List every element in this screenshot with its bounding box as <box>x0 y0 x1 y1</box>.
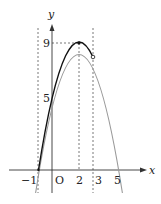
vertex-point <box>77 41 80 44</box>
zero-point <box>37 169 39 171</box>
tick-x-3: 3 <box>95 174 102 187</box>
tick-x-minus1: −1 <box>21 174 37 187</box>
solid-curve <box>39 42 94 170</box>
tick-y-5: 5 <box>43 92 50 105</box>
y-axis-arrow-icon <box>50 24 55 31</box>
tick-y-9: 9 <box>43 37 50 50</box>
parabola-graph: y x O −1 2 3 5 9 5 <box>0 0 161 204</box>
origin-label: O <box>55 174 64 187</box>
tick-x-2: 2 <box>76 174 83 187</box>
tick-x-5: 5 <box>114 174 121 187</box>
x-axis-label: x <box>149 164 156 177</box>
open-point <box>91 55 95 59</box>
x-axis-arrow-icon <box>140 168 147 173</box>
y-axis-label: y <box>47 8 55 21</box>
